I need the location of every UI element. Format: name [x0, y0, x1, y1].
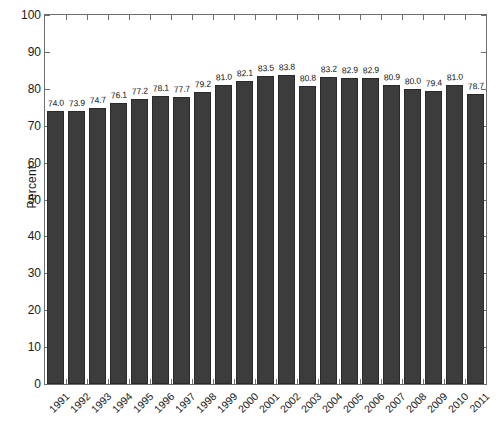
- bar-value-label: 74.7: [89, 95, 106, 106]
- x-axis-category-label: 2000: [235, 390, 260, 415]
- x-axis-category-label: 2009: [424, 390, 449, 415]
- bar: [383, 85, 400, 384]
- bar-value-label: 83.8: [278, 61, 295, 72]
- bar-value-label: 82.9: [341, 65, 358, 76]
- bar-value-label: 82.1: [236, 68, 253, 79]
- x-axis-category-label: 1999: [214, 390, 239, 415]
- bar-value-label: 77.2: [131, 86, 148, 97]
- bar: [215, 85, 232, 384]
- bar: [131, 99, 148, 384]
- bar: [404, 89, 421, 384]
- bar-value-label: 77.7: [173, 84, 190, 95]
- x-axis-tick: [129, 379, 130, 384]
- x-axis-tick: [402, 379, 403, 384]
- x-axis-tick: [66, 15, 67, 20]
- x-axis-tick: [381, 15, 382, 20]
- x-axis-tick: [318, 379, 319, 384]
- bar-value-label: 80.8: [299, 72, 316, 83]
- x-axis-category-label: 2004: [319, 390, 344, 415]
- x-axis-tick: [318, 15, 319, 20]
- bar-value-label: 80.9: [383, 72, 400, 83]
- x-axis-tick: [192, 15, 193, 20]
- x-axis-tick: [171, 15, 172, 20]
- x-axis-tick: [87, 15, 88, 20]
- x-axis-tick: [150, 379, 151, 384]
- bar-value-label: 76.1: [110, 90, 127, 101]
- x-axis-tick: [297, 15, 298, 20]
- x-axis-category-label: 1991: [46, 390, 71, 415]
- x-axis-category-label: 2007: [382, 390, 407, 415]
- bar: [257, 76, 274, 384]
- bar: [194, 92, 211, 384]
- y-axis-tick-label: 40: [28, 229, 41, 243]
- x-axis-tick: [402, 15, 403, 20]
- x-axis-tick: [381, 379, 382, 384]
- y-axis-tick-label: 60: [28, 156, 41, 170]
- x-axis-tick: [339, 379, 340, 384]
- x-axis-category-label: 2011: [467, 390, 491, 414]
- bar-value-label: 78.1: [152, 82, 169, 93]
- bar: [278, 75, 295, 384]
- bar: [152, 96, 169, 384]
- x-axis-tick: [444, 15, 445, 20]
- bar: [425, 91, 442, 384]
- x-axis-tick: [444, 379, 445, 384]
- x-axis-tick: [129, 15, 130, 20]
- y-axis-tick-label: 20: [28, 303, 41, 317]
- x-axis-tick: [360, 15, 361, 20]
- x-axis-tick: [255, 379, 256, 384]
- x-axis-category-label: 2003: [298, 390, 323, 415]
- bar-value-label: 80.0: [404, 75, 421, 86]
- x-axis-category-label: 1997: [172, 390, 197, 415]
- x-axis-tick: [339, 15, 340, 20]
- bar-value-label: 79.2: [194, 78, 211, 89]
- bar-value-label: 81.0: [215, 72, 232, 83]
- x-axis-tick: [150, 15, 151, 20]
- bar-value-label: 82.9: [362, 65, 379, 76]
- bar-value-label: 78.7: [467, 80, 484, 91]
- x-axis-category-label: 2006: [361, 390, 386, 415]
- x-axis-tick: [213, 379, 214, 384]
- bar: [47, 111, 64, 384]
- bar: [341, 78, 358, 384]
- x-axis-tick: [465, 15, 466, 20]
- x-axis-category-label: 2005: [340, 390, 365, 415]
- x-axis-tick: [108, 15, 109, 20]
- bar-value-label: 74.0: [47, 98, 64, 109]
- bar: [467, 94, 484, 384]
- y-axis-tick: [45, 52, 50, 53]
- y-axis-tick-label: 100: [21, 8, 41, 22]
- x-axis-category-label: 1994: [109, 390, 134, 415]
- x-axis-tick: [423, 379, 424, 384]
- y-axis-tick-label: 0: [34, 377, 41, 391]
- x-axis-tick: [234, 379, 235, 384]
- x-axis-category-label: 1996: [151, 390, 176, 415]
- x-axis-tick: [360, 379, 361, 384]
- bar-value-label: 79.4: [425, 78, 442, 89]
- y-axis-tick: [45, 15, 50, 16]
- plot-area: 010203040506070809010074.073.974.776.177…: [44, 14, 487, 385]
- bar-value-label: 83.5: [257, 62, 274, 73]
- plot-canvas: 010203040506070809010074.073.974.776.177…: [45, 15, 486, 384]
- x-axis-category-label: 2008: [403, 390, 428, 415]
- y-axis-tick: [481, 384, 486, 385]
- chart-figure: Percent 010203040506070809010074.073.974…: [0, 0, 500, 425]
- y-axis-tick: [45, 384, 50, 385]
- x-axis-tick: [192, 379, 193, 384]
- bar: [173, 97, 190, 384]
- x-axis-tick: [276, 379, 277, 384]
- x-axis-tick: [423, 15, 424, 20]
- x-axis-category-label: 2010: [445, 390, 470, 415]
- y-axis-tick-label: 10: [28, 340, 41, 354]
- y-axis-tick: [45, 89, 50, 90]
- x-axis-tick: [297, 379, 298, 384]
- x-axis-tick: [213, 15, 214, 20]
- bar: [320, 77, 337, 384]
- bar: [299, 86, 316, 384]
- bar-value-label: 81.0: [446, 72, 463, 83]
- x-axis-category-label: 2001: [256, 390, 281, 415]
- bar: [236, 81, 253, 384]
- y-axis-tick-label: 80: [28, 82, 41, 96]
- y-axis-tick-label: 70: [28, 119, 41, 133]
- y-axis-tick-label: 90: [28, 45, 41, 59]
